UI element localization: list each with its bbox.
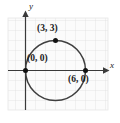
point-label-0-0: (0, 0) [27,54,48,64]
grid-lines [8,18,108,110]
point-marker-top [53,38,58,43]
coordinate-plot-svg [0,0,120,123]
figure-canvas: (3, 3) (0, 0) (6, 0) x y [0,0,120,123]
point-marker-origin [23,68,28,73]
x-axis-label: x [110,61,114,70]
point-label-6-0: (6, 0) [68,75,89,85]
point-marker-right [83,68,88,73]
point-label-3-3: (3, 3) [37,24,58,34]
y-axis-label: y [29,2,33,11]
